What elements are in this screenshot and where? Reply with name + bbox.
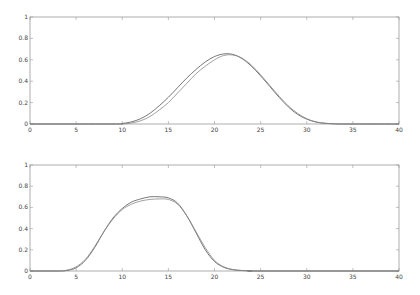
chart-figure: 051015202530354000.20.40.60.810510152025… — [0, 0, 420, 295]
y-tick-label: 0 — [24, 120, 28, 127]
x-tick-label: 5 — [74, 126, 78, 133]
x-tick-label: 30 — [303, 273, 311, 280]
series-curve-b — [30, 55, 399, 124]
y-tick-label: 0.8 — [18, 34, 28, 41]
x-tick-label: 20 — [211, 126, 219, 133]
x-tick-label: 30 — [303, 126, 311, 133]
subplot-1: 051015202530354000.20.40.60.81 — [18, 13, 403, 133]
x-tick-label: 10 — [118, 273, 126, 280]
y-tick-label: 0 — [24, 267, 28, 274]
y-tick-label: 0.2 — [18, 246, 28, 253]
x-tick-label: 5 — [74, 273, 78, 280]
x-tick-label: 25 — [257, 273, 265, 280]
y-tick-label: 0.4 — [18, 225, 28, 232]
y-tick-label: 1 — [24, 13, 28, 20]
y-tick-label: 0.2 — [18, 99, 28, 106]
x-tick-label: 0 — [28, 126, 32, 133]
x-tick-label: 40 — [395, 273, 403, 280]
y-tick-label: 0.4 — [18, 77, 28, 84]
x-tick-label: 20 — [211, 273, 219, 280]
axes-frame — [30, 17, 399, 124]
series-curve-a — [30, 54, 399, 124]
x-tick-label: 35 — [349, 126, 357, 133]
x-tick-label: 15 — [165, 273, 173, 280]
x-tick-label: 10 — [118, 126, 126, 133]
y-tick-label: 0.6 — [18, 56, 28, 63]
x-tick-label: 0 — [28, 273, 32, 280]
x-tick-label: 40 — [395, 126, 403, 133]
y-tick-label: 0.6 — [18, 203, 28, 210]
x-tick-label: 35 — [349, 273, 357, 280]
subplot-2: 051015202530354000.20.40.60.81 — [18, 161, 403, 280]
y-tick-label: 1 — [24, 161, 28, 168]
x-tick-label: 15 — [165, 126, 173, 133]
x-tick-label: 25 — [257, 126, 265, 133]
y-tick-label: 0.8 — [18, 182, 28, 189]
axes-frame — [30, 165, 399, 271]
